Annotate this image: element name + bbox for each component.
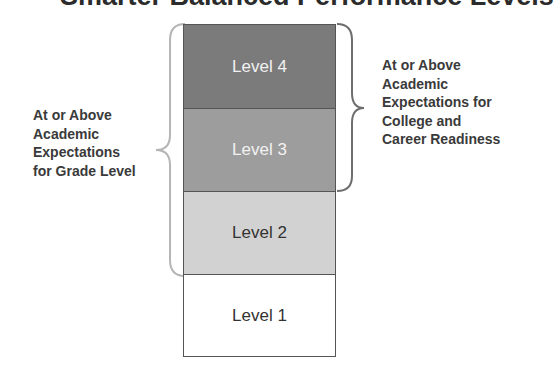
right-annotation-line: Expectations for (382, 93, 500, 112)
diagram-title: Smarter Balanced Performance Levels (0, 0, 552, 10)
right-annotation-line: College and (382, 112, 500, 131)
right-annotation-line: Academic (382, 75, 500, 94)
level-4-block: Level 4 (184, 25, 335, 109)
performance-level-stack: Level 4 Level 3 Level 2 Level 1 (183, 24, 336, 357)
left-annotation-line: for Grade Level (33, 162, 136, 181)
left-annotation-line: Academic (33, 125, 136, 144)
left-annotation: At or Above Academic Expectations for Gr… (33, 106, 136, 180)
level-1-block: Level 1 (184, 275, 335, 356)
right-annotation-line: At or Above (382, 56, 500, 75)
right-annotation-line: Career Readiness (382, 130, 500, 149)
level-1-label: Level 1 (232, 306, 287, 326)
level-3-block: Level 3 (184, 109, 335, 192)
left-annotation-line: At or Above (33, 106, 136, 125)
level-2-block: Level 2 (184, 192, 335, 275)
right-annotation: At or Above Academic Expectations for Co… (382, 56, 500, 149)
right-brace-icon (334, 20, 374, 196)
level-2-label: Level 2 (232, 223, 287, 243)
level-3-label: Level 3 (232, 140, 287, 160)
left-annotation-line: Expectations (33, 143, 136, 162)
level-4-label: Level 4 (232, 57, 287, 77)
